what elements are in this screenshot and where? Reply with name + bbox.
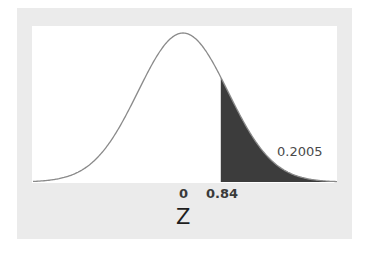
x-tick-zero: 0 xyxy=(179,186,188,201)
tail-area-annotation: 0.2005 xyxy=(277,144,323,159)
x-tick-z-value: 0.84 xyxy=(206,186,238,201)
normal-density-curve xyxy=(33,33,337,182)
x-axis-label: Z xyxy=(176,205,190,229)
